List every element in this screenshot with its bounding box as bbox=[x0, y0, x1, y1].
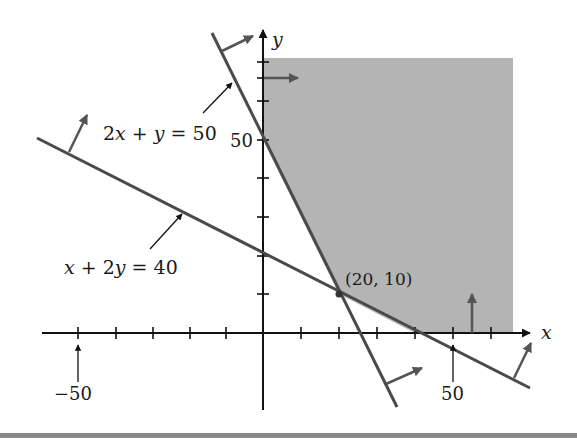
direction-arrow-x-2y-right bbox=[514, 343, 531, 378]
feasible-region bbox=[263, 58, 513, 333]
x-axis-label: x bbox=[541, 321, 552, 343]
y-axis-label: y bbox=[271, 28, 283, 50]
vertex-label: (20, 10) bbox=[345, 269, 412, 289]
direction-arrow-2x-y-top bbox=[222, 36, 253, 51]
vertex-point bbox=[336, 291, 343, 298]
label-2x-plus-y-50: 2x + y = 50 bbox=[103, 122, 217, 144]
feasible-region-diagram: 2x + y = 50 x + 2y = 40 x y −50 50 50 (2… bbox=[0, 0, 577, 438]
bottom-border-band bbox=[0, 433, 577, 438]
pointer-arrow-x-2y-label bbox=[150, 214, 182, 249]
direction-arrow-x-2y-left bbox=[69, 115, 87, 152]
tick-label-neg50: −50 bbox=[54, 383, 92, 404]
label-x-plus-2y-40: x + 2y = 40 bbox=[64, 256, 178, 278]
tick-label-y50: 50 bbox=[230, 130, 253, 151]
tick-label-pos50: 50 bbox=[441, 383, 464, 404]
pointer-arrow-2x-y-label bbox=[203, 83, 232, 113]
direction-arrow-2x-y-bottom bbox=[386, 368, 422, 384]
